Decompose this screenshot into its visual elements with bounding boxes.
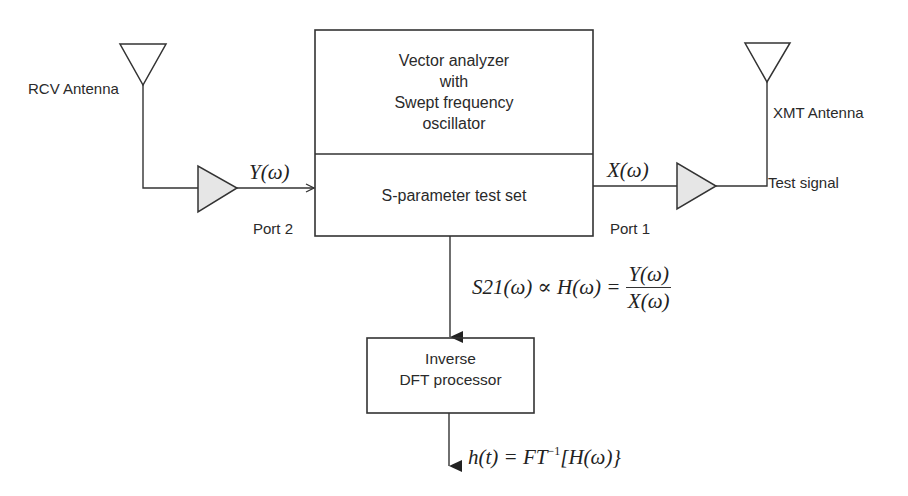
- port-2-label: Port 2: [253, 220, 293, 237]
- test-set-label: S-parameter test set: [315, 185, 593, 206]
- transfer-numerator: Y(ω): [626, 262, 671, 288]
- xmt-amplifier-icon: [677, 163, 716, 209]
- impulse-prefix: h(t) = FT: [468, 445, 548, 469]
- test-signal-label: Test signal: [768, 174, 839, 191]
- analyzer-line-4: oscillator: [315, 113, 593, 134]
- analyzer-line-2: with: [315, 71, 593, 92]
- transfer-function-equation: S21(ω) ∝ H(ω) = Y(ω) X(ω): [472, 262, 671, 313]
- impulse-suffix: [H(ω)}: [560, 445, 621, 469]
- transfer-lhs: S21(ω) ∝ H(ω) =: [472, 275, 620, 300]
- rcv-antenna-label: RCV Antenna: [28, 80, 119, 97]
- analyzer-label: Vector analyzer with Swept frequency osc…: [315, 50, 593, 134]
- dft-line-2: DFT processor: [367, 369, 534, 390]
- transfer-fraction: Y(ω) X(ω): [626, 262, 671, 313]
- transmitted-signal-label: X(ω): [607, 158, 649, 183]
- rcv-feed-line: [143, 85, 198, 188]
- xmt-antenna-icon: [745, 43, 790, 82]
- port-1-label: Port 1: [610, 220, 650, 237]
- diagram-canvas: Vector analyzer with Swept frequency osc…: [0, 0, 908, 496]
- xmt-feed-line: [716, 82, 767, 186]
- dft-line-1: Inverse: [367, 348, 534, 369]
- dft-label: Inverse DFT processor: [367, 348, 534, 390]
- impulse-response-equation: h(t) = FT−1[H(ω)}: [468, 444, 621, 470]
- analyzer-line-1: Vector analyzer: [315, 50, 593, 71]
- received-signal-label: Y(ω): [249, 160, 290, 185]
- rcv-amplifier-icon: [198, 166, 237, 212]
- rcv-antenna-icon: [120, 44, 166, 85]
- analyzer-line-3: Swept frequency: [315, 92, 593, 113]
- transfer-denominator: X(ω): [628, 288, 670, 313]
- xmt-antenna-label: XMT Antenna: [773, 104, 864, 121]
- impulse-exponent: −1: [548, 444, 561, 458]
